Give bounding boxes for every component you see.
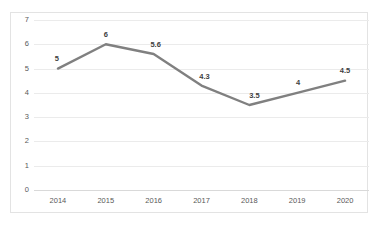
y-axis-tick-label: 7	[25, 16, 29, 24]
x-axis-tick-label: 2018	[241, 197, 258, 205]
y-axis-tick-label: 3	[25, 113, 29, 121]
gridline	[34, 190, 369, 191]
y-axis-tick-label: 0	[25, 186, 29, 194]
plot-area: 01234567 2014201520162017201820192020 56…	[34, 20, 369, 190]
data-point-label: 3.5	[249, 92, 259, 100]
y-axis-tick-label: 4	[25, 89, 29, 97]
x-axis-tick-label: 2015	[97, 197, 114, 205]
line-series	[34, 20, 369, 190]
data-point-label: 5	[55, 54, 59, 62]
data-point-label: 4	[296, 78, 300, 86]
x-axis-tick-label: 2019	[289, 197, 306, 205]
data-point-label: 5.6	[150, 41, 160, 49]
y-axis-tick-label: 1	[25, 162, 29, 170]
y-axis-tick-label: 2	[25, 138, 29, 146]
x-axis-tick-label: 2014	[50, 197, 67, 205]
x-axis-tick-label: 2017	[193, 197, 210, 205]
data-point-label: 6	[104, 31, 108, 39]
data-point-label: 4.5	[340, 66, 350, 74]
x-axis-tick-label: 2016	[145, 197, 162, 205]
y-axis-tick-label: 5	[25, 65, 29, 73]
chart-container: 01234567 2014201520162017201820192020 56…	[10, 12, 368, 213]
y-axis-tick-label: 6	[25, 41, 29, 49]
x-axis-tick-label: 2020	[337, 197, 354, 205]
data-point-label: 4.3	[199, 72, 209, 80]
